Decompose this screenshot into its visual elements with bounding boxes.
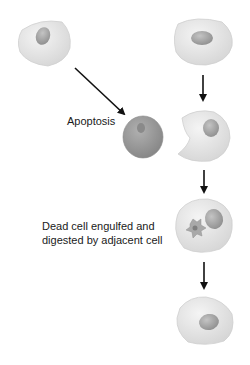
- recovered-cell: [177, 297, 233, 344]
- nucleus: [191, 31, 213, 45]
- digesting-cell: [176, 199, 233, 252]
- engulf-label-line1: Dead cell engulfed and: [42, 220, 155, 233]
- engulf-label-line2: digested by adjacent cell: [42, 234, 162, 247]
- arrow-to-apoptosis: [75, 68, 124, 114]
- healthy-cell-left: [18, 21, 70, 66]
- apoptosis-label: Apoptosis: [67, 115, 115, 128]
- engulfed-nucleus: [193, 226, 198, 231]
- apoptotic-cell: [123, 116, 163, 158]
- condensed-nucleus: [137, 123, 145, 133]
- nucleus: [203, 119, 219, 137]
- healthy-cell-right: [174, 19, 232, 65]
- diagram-canvas: [0, 0, 250, 365]
- engulfing-cell: [178, 111, 230, 162]
